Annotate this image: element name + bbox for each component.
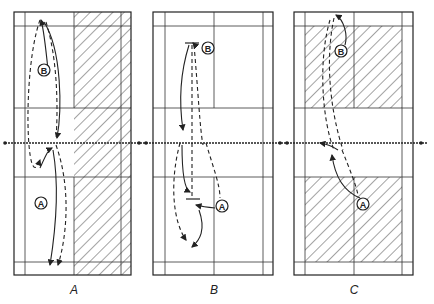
court-diagram-c: B A C bbox=[294, 12, 413, 297]
hatched-area-bottom bbox=[305, 177, 402, 262]
svg-text:A: A bbox=[38, 199, 45, 209]
svg-text:A: A bbox=[360, 200, 367, 210]
hatched-area-top bbox=[305, 26, 402, 108]
svg-text:A: A bbox=[219, 202, 226, 212]
court-diagram-a: B A A bbox=[14, 12, 131, 297]
hatched-area bbox=[74, 12, 131, 275]
badminton-diagrams: B A A B A B bbox=[0, 0, 434, 304]
diagram-label-a: A bbox=[69, 283, 78, 297]
svg-text:B: B bbox=[338, 47, 345, 57]
svg-text:B: B bbox=[205, 44, 212, 54]
diagram-label-c: C bbox=[350, 283, 359, 297]
svg-text:B: B bbox=[41, 66, 48, 76]
diagram-label-b: B bbox=[210, 283, 218, 297]
court-diagram-b: B A B bbox=[153, 12, 273, 297]
net bbox=[3, 141, 428, 145]
